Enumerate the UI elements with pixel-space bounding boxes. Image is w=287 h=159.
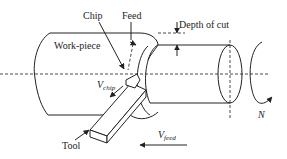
depth-of-cut-label: Depth of cut (179, 19, 229, 30)
rotation-arrow (250, 42, 272, 103)
v-chip-label: Vchip (97, 79, 116, 92)
v-feed-label: Vfeed (158, 129, 176, 142)
machined-cylinder (146, 40, 243, 118)
feed-marker (128, 44, 133, 70)
tool-label: Tool (62, 140, 80, 151)
workpiece-label: Work-piece (54, 40, 101, 51)
chip-label: Chip (83, 10, 102, 21)
rotation-label: N (257, 109, 266, 120)
feed-label: Feed (122, 10, 141, 21)
turning-diagram: Chip Feed Depth of cut Work-piece Vchip … (0, 0, 287, 159)
